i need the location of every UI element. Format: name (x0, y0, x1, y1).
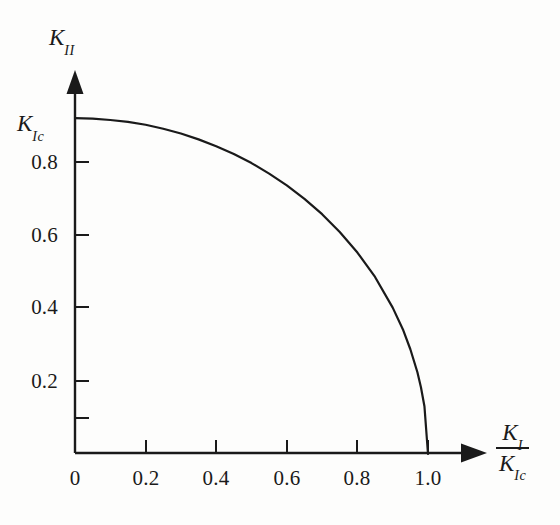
x-axis-ticks (75, 440, 428, 453)
x-tick-label-0-8: 0.8 (344, 466, 371, 491)
y-axis-title-symbol: K (49, 25, 64, 50)
x-tick-label-0-6: 0.6 (274, 466, 301, 491)
y-tick-label-0-8: 0.8 (0, 150, 58, 175)
x-axis-title: KI KIc (496, 421, 529, 476)
x-axis-title-denominator: KIc (496, 451, 529, 476)
plot-area (0, 0, 560, 525)
y-axis-ticks (75, 162, 89, 418)
x-tick-label-0-2: 0.2 (133, 466, 160, 491)
fraction-bar (496, 447, 529, 449)
x-tick-label-0-4: 0.4 (203, 466, 230, 491)
y-top-label-symbol: K (17, 111, 32, 136)
x-tick-label-0: 0 (70, 466, 81, 491)
x-axis-title-fraction: KI KIc (496, 421, 529, 476)
y-tick-label-0-6: 0.6 (0, 223, 58, 248)
y-axis-title-subscript: II (64, 42, 74, 58)
fracture-envelope-curve (75, 118, 428, 454)
y-axis-top-tick-label: KIc (17, 111, 44, 137)
x-tick-label-1-0: 1.0 (415, 466, 442, 491)
y-tick-label-0-2: 0.2 (0, 369, 58, 394)
figure-canvas: KII KIc 0.2 0.4 0.6 0.8 0 0.2 0.4 0.6 0.… (0, 0, 560, 525)
x-axis-arrowhead (461, 444, 487, 463)
x-axis-title-numerator: KI (496, 421, 529, 446)
y-axis-title: KII (49, 25, 74, 51)
y-tick-label-0-4: 0.4 (0, 295, 58, 320)
y-axis-arrowhead (67, 70, 84, 94)
y-top-label-subscript: Ic (32, 128, 44, 144)
